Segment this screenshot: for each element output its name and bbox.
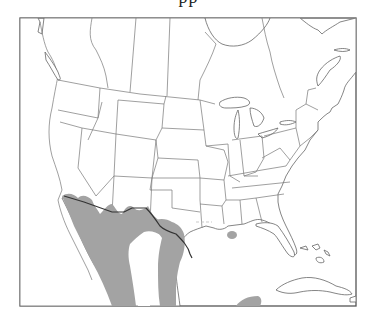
range-map [0, 0, 377, 321]
anticosti [334, 49, 350, 52]
range-louisiana-patch [227, 231, 237, 239]
